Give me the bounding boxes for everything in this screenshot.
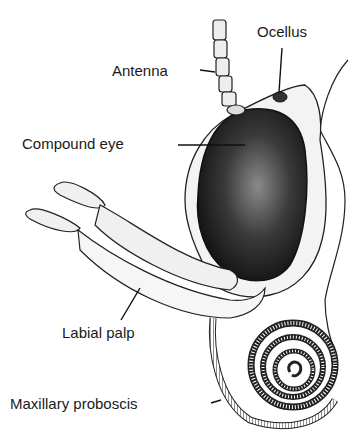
compound-eye bbox=[197, 109, 306, 281]
label-antenna: Antenna bbox=[112, 63, 168, 78]
antenna bbox=[213, 20, 245, 115]
label-labial-palp: Labial palp bbox=[62, 325, 135, 340]
proboscis-coil bbox=[251, 323, 335, 407]
label-ocellus: Ocellus bbox=[257, 24, 307, 39]
label-maxillary-proboscis: Maxillary proboscis bbox=[10, 396, 138, 411]
butterfly-head-illustration bbox=[0, 0, 357, 438]
label-compound-eye: Compound eye bbox=[22, 136, 124, 151]
ocellus bbox=[273, 92, 287, 102]
